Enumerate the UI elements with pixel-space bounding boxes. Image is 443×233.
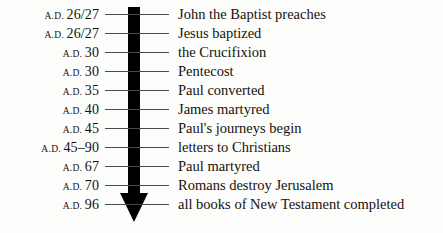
timeline-date: A.D.30 [0, 43, 99, 62]
timeline-row: A.D.45–90 letters to Christians [0, 138, 443, 157]
timeline-row: A.D.26/27 John the Baptist preaches [0, 5, 443, 24]
era-label: A.D. [41, 144, 61, 154]
timeline-event: Romans destroy Jerusalem [178, 176, 333, 195]
era-label: A.D. [63, 87, 83, 97]
timeline-event: letters to Christians [178, 138, 291, 157]
timeline-event: the Crucifixion [178, 43, 266, 62]
timeline-date: A.D.26/27 [0, 5, 99, 24]
era-label: A.D. [63, 163, 83, 173]
timeline-date: A.D.30 [0, 62, 99, 81]
timeline-event: Paul converted [178, 81, 265, 100]
timeline-row: A.D.70 Romans destroy Jerusalem [0, 176, 443, 195]
era-label: A.D. [63, 106, 83, 116]
year-label: 67 [85, 159, 99, 174]
timeline-date: A.D.40 [0, 100, 99, 119]
timeline-row: A.D.26/27 Jesus baptized [0, 24, 443, 43]
timeline-event: Pentecost [178, 62, 234, 81]
tick-mark [105, 109, 169, 110]
timeline-event: James martyred [178, 100, 269, 119]
era-label: A.D. [63, 182, 83, 192]
timeline-event: Paul's journeys begin [178, 119, 301, 138]
year-label: 30 [85, 45, 99, 60]
era-label: A.D. [63, 68, 83, 78]
timeline-row: A.D.45 Paul's journeys begin [0, 119, 443, 138]
tick-mark [105, 204, 169, 205]
era-label: A.D. [63, 125, 83, 135]
timeline-row: A.D.67 Paul martyred [0, 157, 443, 176]
tick-mark [105, 147, 169, 148]
year-label: 30 [85, 64, 99, 79]
year-label: 26/27 [67, 7, 99, 22]
tick-mark [105, 14, 169, 15]
year-label: 35 [85, 83, 99, 98]
era-label: A.D. [63, 201, 83, 211]
tick-mark [105, 90, 169, 91]
timeline-row: A.D.96 all books of New Testament comple… [0, 195, 443, 214]
tick-mark [105, 128, 169, 129]
era-label: A.D. [63, 49, 83, 59]
timeline-figure: A.D.26/27 John the Baptist preaches A.D.… [0, 0, 443, 233]
timeline-rows: A.D.26/27 John the Baptist preaches A.D.… [0, 0, 443, 233]
year-label: 96 [85, 197, 99, 212]
timeline-date: A.D.67 [0, 157, 99, 176]
timeline-row: A.D.30 the Crucifixion [0, 43, 443, 62]
era-label: A.D. [44, 30, 64, 40]
tick-mark [105, 71, 169, 72]
tick-mark [105, 52, 169, 53]
year-label: 70 [85, 178, 99, 193]
timeline-event: Paul martyred [178, 157, 260, 176]
timeline-date: A.D.35 [0, 81, 99, 100]
timeline-date: A.D.70 [0, 176, 99, 195]
timeline-event: John the Baptist preaches [178, 5, 326, 24]
timeline-event: all books of New Testament completed [178, 195, 404, 214]
year-label: 40 [85, 102, 99, 117]
year-label: 45–90 [64, 140, 100, 155]
timeline-date: A.D.26/27 [0, 24, 99, 43]
year-label: 26/27 [67, 26, 99, 41]
tick-mark [105, 33, 169, 34]
timeline-row: A.D.40 James martyred [0, 100, 443, 119]
timeline-row: A.D.35 Paul converted [0, 81, 443, 100]
timeline-date: A.D.45 [0, 119, 99, 138]
tick-mark [105, 166, 169, 167]
timeline-date: A.D.96 [0, 195, 99, 214]
timeline-row: A.D.30 Pentecost [0, 62, 443, 81]
tick-mark [105, 185, 169, 186]
year-label: 45 [85, 121, 99, 136]
timeline-event: Jesus baptized [178, 24, 261, 43]
era-label: A.D. [44, 11, 64, 21]
timeline-date: A.D.45–90 [0, 138, 99, 157]
